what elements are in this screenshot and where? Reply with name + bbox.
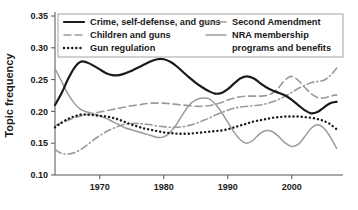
y-tick-label: 0.10	[30, 170, 48, 180]
y-tick-label: 0.15	[30, 138, 48, 148]
legend-label: programs and benefits	[232, 43, 331, 53]
chart-figure: 0.100.150.200.250.300.351970198019902000…	[0, 0, 358, 210]
x-tick-label: 2000	[282, 182, 302, 192]
series-line	[55, 59, 337, 113]
legend-label: Second Amendment	[232, 17, 320, 27]
topic-frequency-line-chart: 0.100.150.200.250.300.351970198019902000…	[0, 0, 358, 210]
y-tick-label: 0.35	[30, 11, 48, 21]
y-tick-label: 0.20	[30, 107, 48, 117]
x-tick-label: 1980	[154, 182, 174, 192]
y-tick-label: 0.30	[30, 43, 48, 53]
series-line	[55, 68, 337, 154]
legend-label: Gun regulation	[90, 43, 156, 53]
series-line	[55, 114, 337, 133]
legend-label: Crime, self-defense, and guns	[90, 17, 221, 27]
y-tick-label: 0.25	[30, 75, 48, 85]
legend-label: Children and guns	[90, 30, 171, 40]
y-axis-title: Topic frequency	[3, 53, 15, 138]
x-tick-label: 1970	[90, 182, 110, 192]
legend-label: NRA membership	[232, 30, 309, 40]
x-tick-label: 1990	[218, 182, 238, 192]
